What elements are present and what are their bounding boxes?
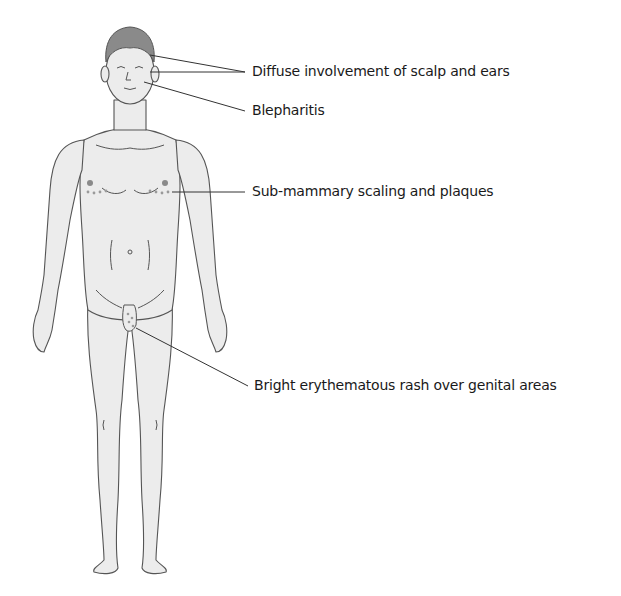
body-outline-illustration [0, 0, 621, 596]
annotation-scalp-ears: Diffuse involvement of scalp and ears [252, 63, 510, 79]
annotation-blepharitis: Blepharitis [252, 102, 325, 118]
body-diagram: Diffuse involvement of scalp and ears Bl… [0, 0, 621, 596]
annotation-submammary: Sub-mammary scaling and plaques [252, 183, 493, 199]
annotation-genital-rash: Bright erythematous rash over genital ar… [254, 377, 557, 393]
